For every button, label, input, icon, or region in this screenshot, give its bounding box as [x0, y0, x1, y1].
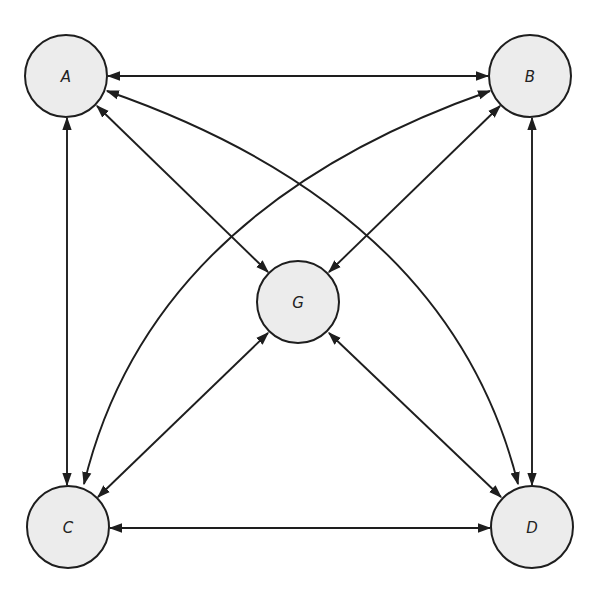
node-d-label: D [526, 519, 538, 537]
edge-a-g [97, 106, 268, 272]
node-g[interactable]: G [257, 261, 339, 343]
node-b-label: B [525, 68, 535, 86]
edge-d-g [329, 333, 501, 497]
node-d[interactable]: D [491, 486, 573, 568]
edge-c-g [98, 333, 268, 497]
node-g-label: G [292, 294, 304, 312]
node-c-label: C [63, 519, 74, 537]
edge-b-g [329, 106, 500, 272]
node-c[interactable]: C [27, 486, 109, 568]
node-a-label: A [60, 68, 71, 86]
node-a[interactable]: A [25, 35, 107, 117]
node-b[interactable]: B [489, 35, 571, 117]
graph-diagram: A B C D G [0, 0, 605, 599]
